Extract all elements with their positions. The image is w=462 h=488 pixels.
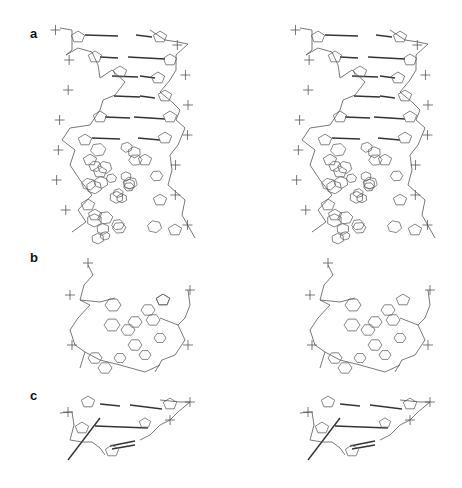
base-pair-rung — [378, 138, 400, 140]
base-ring — [381, 305, 395, 315]
base-pair-rung — [354, 96, 380, 97]
sugar-ring — [78, 134, 91, 145]
base-ring — [139, 351, 151, 360]
backbone-left — [60, 412, 105, 455]
sugar-ring — [139, 418, 150, 427]
sugar-ring — [81, 396, 94, 407]
backbone-left — [300, 412, 345, 455]
sugar-ring — [403, 54, 416, 65]
base-pair-rung — [308, 418, 340, 460]
base-ring — [121, 325, 135, 335]
base-pair-rung — [100, 404, 120, 406]
panel-a-left-view — [50, 25, 195, 244]
panel-b-left-view — [65, 258, 195, 373]
sugar-ring — [163, 398, 176, 409]
base-ring — [150, 171, 163, 181]
base-ring — [112, 220, 125, 230]
backbone-link — [160, 318, 178, 325]
base-ring — [344, 319, 360, 331]
base-ring — [104, 319, 120, 331]
base-ring — [346, 174, 356, 183]
base-ring — [128, 317, 142, 327]
base-ring — [331, 144, 346, 156]
sugar-ring — [318, 134, 331, 145]
backbone-link — [320, 298, 355, 302]
base-ring — [129, 147, 141, 158]
base-ring — [121, 142, 132, 152]
base-pair-rung — [134, 117, 165, 119]
panel-c-left-view — [60, 396, 195, 460]
base-ring — [128, 340, 142, 350]
base-ring — [379, 351, 391, 360]
base-ring — [353, 189, 363, 198]
stereo-figure — [0, 0, 462, 488]
base-ring — [354, 354, 366, 363]
base-ring — [369, 147, 381, 158]
base-pair-rung — [325, 35, 358, 36]
base-ring — [154, 334, 166, 343]
base-pair-rung — [370, 405, 402, 409]
sugar-ring — [321, 396, 334, 407]
base-pair-rung — [68, 418, 100, 460]
backbone-right — [390, 30, 435, 238]
base-pair-rung — [380, 76, 395, 78]
base-ring — [386, 315, 400, 325]
base-ring — [148, 221, 162, 233]
base-ring — [88, 353, 102, 363]
sugar-ring — [403, 398, 416, 409]
base-pair-rung — [376, 35, 392, 37]
base-ring — [338, 363, 352, 373]
base-ring — [129, 155, 142, 165]
base-ring — [328, 353, 342, 363]
base-ring — [146, 315, 160, 325]
base-pair-rung — [105, 117, 130, 118]
sugar-ring — [88, 51, 101, 62]
backbone-link — [80, 298, 115, 302]
base-ring — [394, 334, 406, 343]
base-pair-rung — [95, 426, 148, 428]
sugar-ring — [396, 294, 409, 305]
base-ring — [113, 189, 123, 198]
base-pair-rung — [368, 57, 405, 59]
base-ring — [141, 305, 155, 315]
base-ring — [368, 317, 382, 327]
backbone-right — [155, 290, 190, 372]
base-ring — [390, 171, 403, 181]
backbone-right — [395, 290, 430, 372]
base-pair-rung — [332, 138, 360, 139]
base-pair-rung — [136, 35, 152, 37]
base-ring — [340, 232, 350, 240]
sugar-ring — [408, 224, 421, 235]
base-pair-rung — [114, 96, 140, 97]
backbone-right — [150, 30, 195, 238]
panel-a-right-view — [290, 25, 435, 244]
base-ring — [361, 142, 372, 152]
sugar-ring — [156, 294, 169, 305]
sugar-ring — [75, 422, 88, 433]
sugar-ring — [113, 66, 126, 77]
base-pair-rung — [92, 138, 120, 139]
sugar-ring — [71, 31, 84, 42]
base-pair-rung — [100, 57, 118, 58]
sugar-ring — [163, 111, 176, 122]
sugar-ring — [345, 445, 358, 456]
base-pair-rung — [340, 57, 358, 58]
sugar-ring — [158, 132, 171, 143]
base-ring — [388, 221, 402, 233]
sugar-ring — [168, 224, 181, 235]
base-ring — [361, 325, 375, 335]
sugar-ring — [353, 66, 366, 77]
base-ring — [100, 232, 110, 240]
base-pair-rung — [140, 96, 155, 98]
sugar-ring — [328, 51, 341, 62]
base-ring — [345, 299, 361, 311]
base-pair-rung — [130, 405, 162, 409]
backbone-left — [310, 265, 333, 368]
base-ring — [91, 144, 106, 156]
panel-b-right-view — [156, 258, 435, 373]
sugar-ring — [393, 194, 406, 205]
base-ring — [105, 299, 121, 311]
sugar-ring — [379, 418, 390, 427]
base-ring — [369, 155, 382, 165]
base-ring — [117, 194, 126, 203]
